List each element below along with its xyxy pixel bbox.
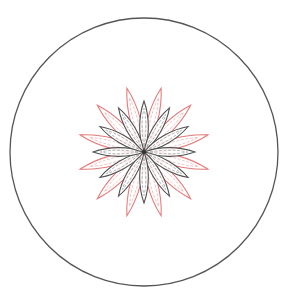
mandala-diagram [0,0,294,302]
flower-center [142,150,146,154]
flower-drawing [0,0,294,302]
